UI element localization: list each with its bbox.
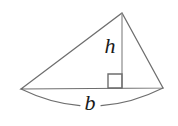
triangle-area-diagram: h b [0, 0, 178, 126]
base-brace-right [101, 88, 163, 106]
height-label: h [105, 33, 116, 58]
base-label: b [85, 90, 96, 115]
base-brace-left [21, 89, 80, 106]
diagram-canvas: h b [0, 0, 178, 126]
right-angle-marker-icon [108, 74, 122, 88]
triangle-outline [21, 13, 163, 89]
